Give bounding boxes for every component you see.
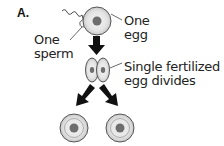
arrow-down-icon bbox=[88, 36, 105, 55]
daughter-nucleus-right bbox=[116, 124, 125, 133]
egg-leader-line bbox=[111, 14, 122, 20]
daughter-nucleus-left bbox=[70, 124, 79, 133]
sperm-leader-line bbox=[70, 27, 82, 40]
egg-nucleus bbox=[93, 17, 102, 26]
dividing-nucleus-left bbox=[90, 67, 94, 73]
arrow-down-left-icon bbox=[76, 84, 95, 106]
dividing-nucleus-right bbox=[101, 67, 105, 73]
sperm-tail bbox=[62, 10, 84, 22]
fertilization-diagram bbox=[0, 0, 224, 146]
arrow-down-right-icon bbox=[99, 84, 118, 106]
divides-leader-line bbox=[110, 63, 122, 68]
